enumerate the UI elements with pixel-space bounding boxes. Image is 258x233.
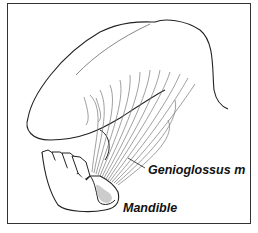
tongue-anatomy-illustration [0,0,258,233]
mandible-label: Mandible [123,201,177,215]
tongue-underside [27,90,165,140]
tongue-dorsum-line [76,24,150,75]
genioglossus-label: Genioglossus m [148,163,245,177]
